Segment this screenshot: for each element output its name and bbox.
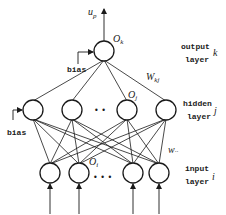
output-layer-label-line1: output <box>181 42 210 51</box>
weights-ji-label: w·· <box>168 144 178 156</box>
hidden-ellipsis: • • <box>94 106 106 115</box>
output-layer-label-line2: layer <box>185 55 209 64</box>
edge-input-3-to-hidden-1 <box>33 119 133 164</box>
input-ellipsis: • • • <box>93 173 112 182</box>
input-node-4 <box>149 163 169 183</box>
hidden-bias-arrow <box>13 110 22 120</box>
hidden-bias-label: bias <box>7 128 26 137</box>
input-layer-label-line2: layer <box>185 177 209 186</box>
edge-input-3-to-hidden-2 <box>72 119 133 164</box>
hidden-layer-label-line2: layer <box>187 112 211 121</box>
neural-network-diagram: up bias Ok output layer k Wkj bias • • O… <box>0 0 226 215</box>
input-node-3 <box>123 163 143 183</box>
edge-input-2-to-hidden-2 <box>72 119 79 164</box>
input-to-hidden-edges <box>33 119 166 164</box>
hidden-node-2 <box>62 100 82 120</box>
hidden-node-3 <box>117 100 137 120</box>
input-node-label: Oi <box>89 156 98 169</box>
input-layer-label-line1: input <box>185 164 209 173</box>
hidden-layer-index: j <box>212 105 217 116</box>
input-signal-arrows <box>50 184 159 214</box>
weights-kj-label: Wkj <box>146 71 159 84</box>
output-layer-index: k <box>213 47 218 58</box>
hidden-layer-label-line1: hidden <box>183 99 212 108</box>
edge-input-4-to-hidden-4 <box>159 119 166 164</box>
output-bias-arrow <box>78 52 93 64</box>
hidden-node-1 <box>23 100 43 120</box>
output-node-label: Ok <box>113 33 124 46</box>
output-node <box>94 41 114 61</box>
edge-input-2-to-hidden-1 <box>33 119 79 164</box>
input-node-1 <box>40 163 60 183</box>
input-layer-index: i <box>212 171 215 182</box>
hidden-node-4 <box>156 100 176 120</box>
input-node-2 <box>69 163 89 183</box>
output-signal-label: up <box>88 6 97 20</box>
output-bias-label: bias <box>67 65 86 74</box>
edge-input-1-to-hidden-4 <box>50 119 166 164</box>
edge-hidden-3-to-output <box>104 60 127 101</box>
